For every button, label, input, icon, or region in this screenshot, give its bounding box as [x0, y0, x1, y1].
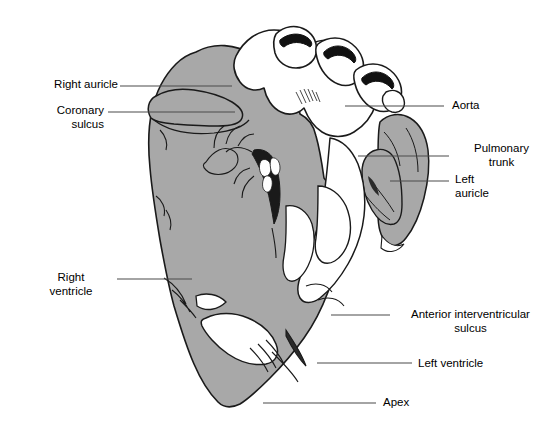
label-aorta: Aorta [452, 99, 552, 113]
label-anterior-interventricular-sulcus: Anterior interventricular sulcus [393, 308, 548, 335]
coronary-fat-globule-1 [259, 159, 271, 176]
coronary-fat-globule-3 [263, 176, 273, 192]
label-pulmonary-trunk: Pulmonary trunk [452, 142, 551, 169]
heart-anatomy-figure: Right auricle Coronary sulcus Aorta Pulm… [0, 0, 555, 437]
label-apex: Apex [383, 396, 463, 410]
heart-illustration [0, 0, 555, 437]
label-left-ventricle: Left ventricle [418, 357, 548, 371]
label-right-auricle: Right auricle [0, 78, 118, 92]
label-coronary-sulcus: Coronary sulcus [0, 104, 104, 131]
label-left-auricle: Left auricle [455, 173, 551, 200]
left-auricle-group [362, 115, 429, 252]
label-right-ventricle: Right ventricle [30, 271, 112, 298]
